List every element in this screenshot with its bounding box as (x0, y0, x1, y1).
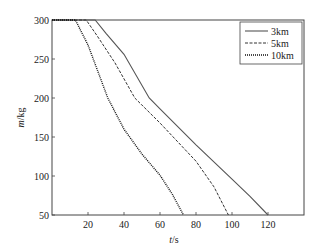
legend-label-10km: 10km (271, 50, 294, 61)
series-line-3km (52, 20, 268, 215)
x-tick-label: 60 (155, 219, 165, 230)
y-tick-label: 300 (34, 15, 49, 26)
legend-label-3km: 3km (271, 26, 289, 37)
x-tick-label: 100 (225, 219, 240, 230)
legend-label-5km: 5km (271, 38, 289, 49)
y-axis-label: m/kg (15, 107, 26, 127)
y-tick-label: 250 (34, 54, 49, 65)
series-lines (52, 20, 268, 215)
x-tick-label: 40 (119, 219, 129, 230)
series-line-5km (52, 20, 228, 215)
series-line-10km (52, 20, 183, 215)
legend: 3km5km10km (240, 22, 302, 64)
x-tick-label: 80 (191, 219, 201, 230)
x-tick-label: 120 (261, 219, 276, 230)
y-tick-label: 200 (34, 93, 49, 104)
x-axis-label-unit: /s (172, 234, 179, 245)
y-axis-label-unit: /kg (15, 107, 26, 120)
y-tick-label: 150 (34, 132, 49, 143)
y-axis-label-var: m (15, 120, 26, 127)
chart: 20406080100120 50100150200250300 t/s m/k… (0, 0, 316, 251)
y-tick-label: 50 (39, 210, 49, 221)
x-axis-label: t/s (169, 234, 179, 245)
y-tick-label: 100 (34, 171, 49, 182)
x-tick-label: 20 (83, 219, 93, 230)
